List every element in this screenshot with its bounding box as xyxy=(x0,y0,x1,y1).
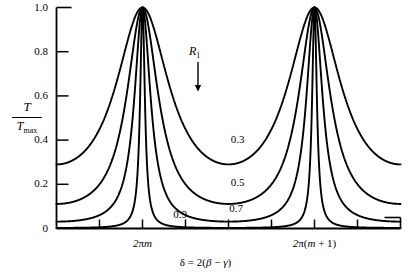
arrow-head xyxy=(195,85,201,92)
transmission-curve-plot xyxy=(0,0,411,276)
curve-R-0-9 xyxy=(57,8,401,228)
y-tick-label-0: 1.0 xyxy=(14,1,48,13)
curve-R-0-3 xyxy=(57,8,401,165)
y-tick-label-1: 0.8 xyxy=(14,45,48,57)
x-axis-title: δ = 2(β − γ) xyxy=(0,256,411,268)
y-axis-title: T Tmax xyxy=(6,100,48,136)
y-tick-label-3: 0.4 xyxy=(14,133,48,145)
legend-arrow-icon xyxy=(195,62,201,92)
airy-curves xyxy=(57,8,401,228)
curve-label-0-3: 0.3 xyxy=(231,133,245,145)
y-tick-label-5: 0 xyxy=(14,222,48,234)
curve-R-0-5 xyxy=(57,8,401,204)
y-tick-label-4: 0.2 xyxy=(14,177,48,189)
x-tick-label-1: 2πm xyxy=(92,237,192,249)
curve-label-0-9: 0.9 xyxy=(173,208,187,220)
curve-label-0-7: 0.7 xyxy=(229,202,243,214)
legend-title: R1 xyxy=(189,44,200,60)
y-tick-label-2: 0.6 xyxy=(14,89,48,101)
x-tick-label-5: 2π(m + 1) xyxy=(265,237,365,249)
y-axis-title-numerator: T xyxy=(6,100,48,116)
figure-container: T Tmax 1.00.80.60.40.20 2πm2π(m + 1) 0.3… xyxy=(0,0,411,276)
plot-frame xyxy=(57,8,401,229)
curve-label-0-5: 0.5 xyxy=(231,176,245,188)
legend-title-subscript: 1 xyxy=(196,51,200,60)
fraction-rule xyxy=(12,117,42,118)
curve-R-0-7 xyxy=(57,8,401,222)
